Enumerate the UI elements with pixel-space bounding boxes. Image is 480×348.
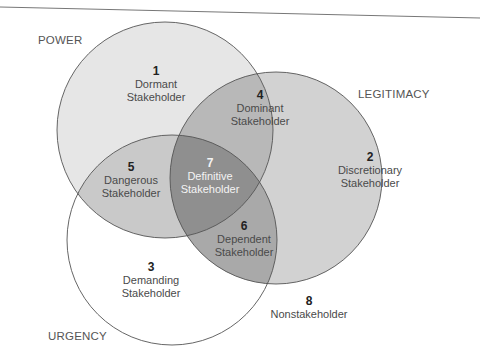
- region-discretionary: 2 Discretionary Stakeholder: [320, 150, 420, 190]
- region-dominant: 4 Dominant Stakeholder: [210, 88, 310, 128]
- region-nonstakeholder: 8 Nonstakeholder: [254, 294, 364, 321]
- set-label-urgency: URGENCY: [48, 330, 107, 342]
- region-dormant: 1 Dormant Stakeholder: [106, 64, 206, 104]
- region-dependent: 6 Dependent Stakeholder: [194, 219, 294, 259]
- set-label-power: POWER: [38, 34, 82, 46]
- top-rule: [0, 7, 480, 18]
- set-label-legitimacy: LEGITIMACY: [358, 88, 430, 100]
- region-demanding: 3 Demanding Stakeholder: [101, 260, 201, 300]
- region-definitive: 7 Definitive Stakeholder: [160, 156, 260, 196]
- stakeholder-venn-diagram: POWER LEGITIMACY URGENCY 1 Dormant Stake…: [0, 0, 480, 348]
